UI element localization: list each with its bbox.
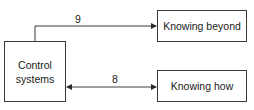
node-label-knowing-beyond: Knowing beyond [163, 19, 241, 33]
node-knowing-how: Knowing how [157, 70, 247, 102]
node-control-systems: Control systems [4, 41, 66, 102]
edge-label-8: 8 [112, 73, 118, 85]
node-label-knowing-how: Knowing how [171, 79, 233, 93]
node-label-control-systems: Control systems [16, 58, 55, 86]
edge-label-9: 9 [75, 13, 81, 25]
edge-control-to-beyond [35, 26, 156, 41]
diagram-canvas: Control systems Knowing beyond Knowing h… [0, 0, 254, 110]
node-knowing-beyond: Knowing beyond [157, 10, 247, 42]
